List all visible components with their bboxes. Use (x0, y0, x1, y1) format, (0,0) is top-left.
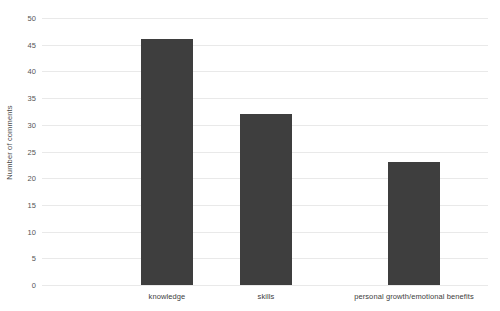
gridline (42, 98, 488, 99)
y-axis-tick-label: 40 (6, 67, 42, 76)
x-axis-category-label: skills (258, 292, 275, 301)
y-axis-tick-labels: 05101520253035404550 (0, 18, 42, 285)
y-axis-tick-label: 45 (6, 40, 42, 49)
x-axis-category-label: knowledge (149, 292, 186, 301)
gridline (42, 71, 488, 72)
y-axis-tick-label: 35 (6, 94, 42, 103)
y-axis-tick-label: 30 (6, 120, 42, 129)
y-axis-tick-label: 15 (6, 200, 42, 209)
bar[interactable] (240, 114, 292, 285)
gridline (42, 18, 488, 19)
y-axis-tick-label: 25 (6, 147, 42, 156)
gridline (42, 285, 488, 286)
gridline (42, 45, 488, 46)
x-axis-category-label: personal growth/emotional benefits (354, 292, 474, 301)
y-axis-tick-label: 10 (6, 227, 42, 236)
plot-area (42, 18, 488, 285)
bar[interactable] (388, 162, 440, 285)
y-axis-tick-label: 5 (6, 254, 42, 263)
bar[interactable] (141, 39, 193, 285)
y-axis-tick-label: 50 (6, 14, 42, 23)
y-axis-tick-label: 0 (6, 281, 42, 290)
y-axis-tick-label: 20 (6, 174, 42, 183)
bar-chart: Number of comments 05101520253035404550 … (0, 0, 500, 311)
